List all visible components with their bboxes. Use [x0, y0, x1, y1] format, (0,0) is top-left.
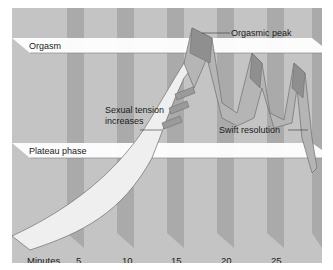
orgasm-band-label: Orgasm — [29, 41, 61, 51]
orgasmic-peak-label: Orgasmic peak — [231, 28, 292, 38]
x-tick-25: 25 — [271, 255, 282, 263]
diagram-frame: Orgasm Plateau phase Orgasmic peak Sexua… — [12, 8, 322, 263]
x-tick-5: 5 — [76, 255, 81, 263]
plateau-band-label: Plateau phase — [29, 146, 87, 156]
sexual-tension-label-2: increases — [105, 116, 144, 126]
x-tick-15: 15 — [171, 255, 182, 263]
swift-resolution-label: Swift resolution — [219, 125, 280, 135]
x-tick-20: 20 — [221, 255, 232, 263]
x-axis-label: Minutes — [27, 255, 60, 263]
sexual-tension-label-1: Sexual tension — [105, 105, 164, 115]
x-tick-10: 10 — [122, 255, 133, 263]
